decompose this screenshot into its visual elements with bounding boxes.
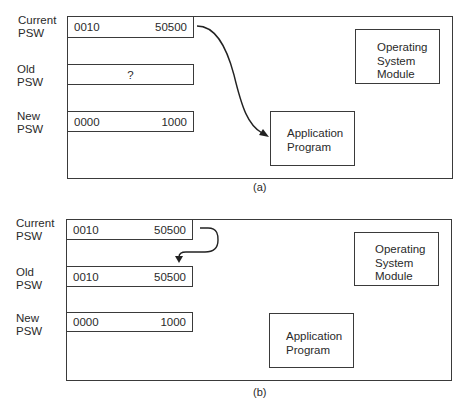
arrow-current-to-old-icon bbox=[175, 228, 218, 263]
arrows-layer bbox=[0, 0, 468, 407]
arrow-current-to-application-icon bbox=[197, 26, 269, 137]
